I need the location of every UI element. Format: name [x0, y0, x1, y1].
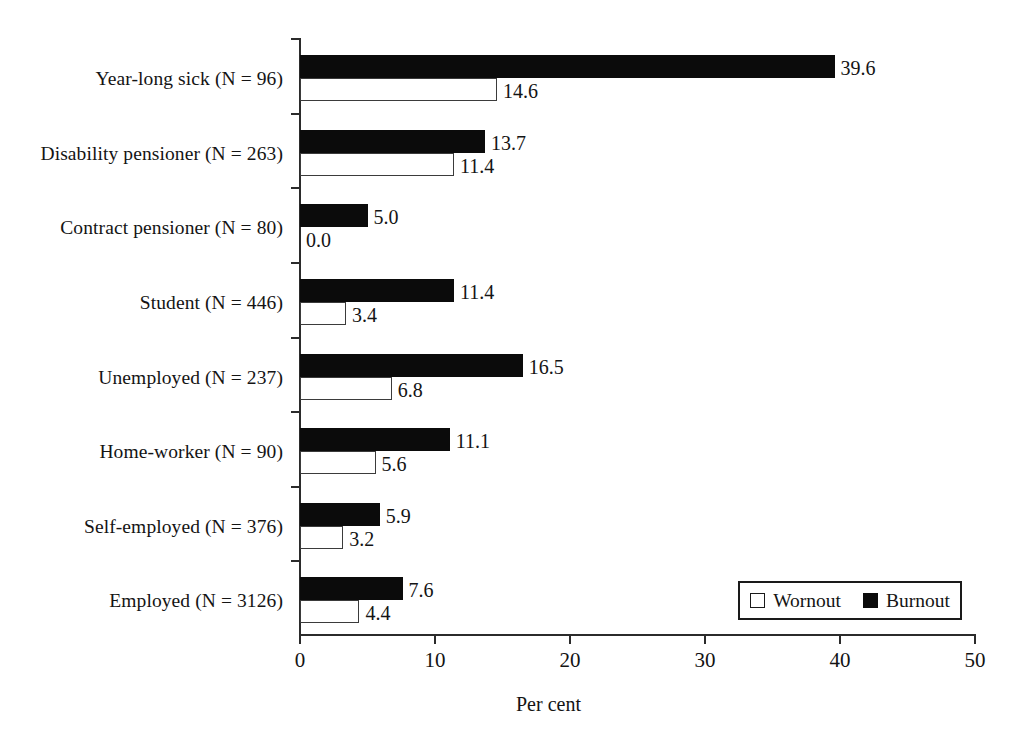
bar-burnout — [300, 577, 403, 600]
bar-value-burnout: 11.1 — [456, 431, 490, 451]
bar-value-burnout: 5.9 — [386, 506, 411, 526]
x-axis-title: Per cent — [0, 694, 1027, 714]
category-label: Disability pensioner (N = 263) — [0, 144, 283, 164]
x-axis-tick — [974, 634, 976, 644]
y-axis-tick — [291, 337, 300, 339]
bar-burnout — [300, 55, 835, 78]
bar-wornout — [300, 377, 392, 400]
bar-value-wornout: 0.0 — [306, 230, 331, 250]
x-axis-tick-label: 0 — [295, 650, 306, 671]
category-label: Contract pensioner (N = 80) — [0, 218, 283, 238]
bar-wornout — [300, 600, 359, 623]
x-axis-tick-label: 20 — [560, 650, 581, 671]
category-label: Self-employed (N = 376) — [0, 517, 283, 537]
category-label: Home-worker (N = 90) — [0, 442, 283, 462]
bar-wornout — [300, 526, 343, 549]
chart-legend: Wornout Burnout — [738, 581, 962, 620]
x-axis-tick-label: 40 — [830, 650, 851, 671]
legend-entry-burnout: Burnout — [863, 591, 950, 611]
x-axis-tick — [434, 634, 436, 644]
bar-chart: Year-long sick (N = 96)Disability pensio… — [0, 0, 1027, 742]
x-axis-line — [299, 634, 976, 636]
bar-burnout — [300, 503, 380, 526]
x-axis-tick-label: 10 — [425, 650, 446, 671]
y-axis-tick — [291, 486, 300, 488]
bar-wornout — [300, 78, 497, 101]
legend-label-burnout: Burnout — [886, 591, 950, 611]
y-axis-tick — [291, 411, 300, 413]
y-axis-tick — [291, 560, 300, 562]
bar-burnout — [300, 130, 485, 153]
filled-square-icon — [863, 593, 878, 608]
x-axis-tick — [839, 634, 841, 644]
y-axis-tick — [291, 113, 300, 115]
bar-value-wornout: 3.4 — [352, 305, 377, 325]
bar-wornout — [300, 153, 454, 176]
bar-value-wornout: 14.6 — [503, 81, 538, 101]
category-label: Student (N = 446) — [0, 293, 283, 313]
legend-entry-wornout: Wornout — [750, 591, 841, 611]
y-axis-tick — [291, 38, 300, 40]
bar-burnout — [300, 204, 368, 227]
bar-value-burnout: 5.0 — [374, 207, 399, 227]
y-axis-tick — [291, 262, 300, 264]
x-axis-tick-label: 50 — [965, 650, 986, 671]
bar-wornout — [300, 302, 346, 325]
category-label: Employed (N = 3126) — [0, 591, 283, 611]
bar-burnout — [300, 428, 450, 451]
x-axis-tick — [569, 634, 571, 644]
x-axis-tick-label: 30 — [695, 650, 716, 671]
bar-value-burnout: 39.6 — [841, 58, 876, 78]
open-square-icon — [750, 593, 765, 608]
x-axis-tick — [299, 634, 301, 644]
legend-label-wornout: Wornout — [773, 591, 841, 611]
bar-value-wornout: 6.8 — [398, 380, 423, 400]
x-axis-tick — [704, 634, 706, 644]
category-label: Unemployed (N = 237) — [0, 368, 283, 388]
category-axis-labels: Year-long sick (N = 96)Disability pensio… — [0, 0, 283, 742]
bar-value-burnout: 13.7 — [491, 133, 526, 153]
x-axis-title-text: Per cent — [516, 693, 581, 715]
bar-value-burnout: 7.6 — [409, 580, 434, 600]
bar-value-burnout: 11.4 — [460, 282, 494, 302]
y-axis-tick — [291, 187, 300, 189]
bar-value-wornout: 4.4 — [365, 603, 390, 623]
bar-value-burnout: 16.5 — [529, 357, 564, 377]
bar-wornout — [300, 451, 376, 474]
bar-value-wornout: 5.6 — [382, 454, 407, 474]
bar-value-wornout: 11.4 — [460, 156, 494, 176]
bar-burnout — [300, 354, 523, 377]
bar-burnout — [300, 279, 454, 302]
plot-area: 01020304050 39.614.613.711.45.00.011.43.… — [300, 38, 975, 635]
category-label: Year-long sick (N = 96) — [0, 69, 283, 89]
bar-value-wornout: 3.2 — [349, 529, 374, 549]
